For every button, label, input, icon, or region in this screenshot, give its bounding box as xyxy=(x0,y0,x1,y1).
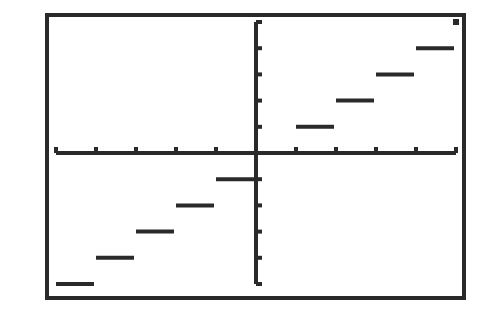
step-function-plot xyxy=(49,17,462,296)
calculator-graph-screen xyxy=(45,13,466,300)
data-point xyxy=(453,19,459,25)
